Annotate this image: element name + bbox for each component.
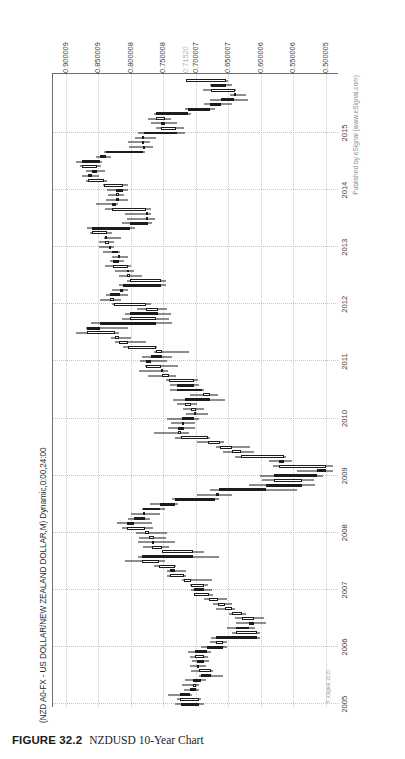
candle-body-down <box>218 488 265 491</box>
candle-wick <box>127 218 155 219</box>
candle-body-up <box>274 478 302 481</box>
candle-body-up <box>170 574 184 577</box>
candle-body-up <box>142 141 144 144</box>
candle-body-up <box>192 683 195 686</box>
candlestick <box>53 245 338 248</box>
candlestick <box>53 260 338 263</box>
candle-body-up <box>109 298 114 301</box>
candle-wick <box>137 541 175 542</box>
candle-body-up <box>118 340 127 343</box>
candle-body-up <box>114 336 118 339</box>
candlestick <box>53 636 338 639</box>
candlestick <box>53 602 338 605</box>
chart-title: (NZD A0-FX - US DOLLAR/NEW ZEALAND DOLLA… <box>39 447 48 722</box>
candle-body-down <box>209 102 220 105</box>
candlestick <box>53 702 338 705</box>
candlestick <box>53 417 338 420</box>
candle-body-down <box>194 588 204 591</box>
candlestick <box>53 502 338 505</box>
candlestick <box>53 212 338 215</box>
publisher-text: Published by eSignal (www.eSignal.com) <box>352 73 359 707</box>
figure-number: FIGURE 32.2 <box>12 734 82 746</box>
candlestick <box>53 307 338 310</box>
candle-wick <box>114 270 133 271</box>
candle-body-down <box>113 260 118 263</box>
candle-body-down <box>88 174 92 177</box>
candlestick <box>53 450 338 453</box>
candlestick <box>53 340 338 343</box>
candle-body-down <box>151 355 161 358</box>
candlestick <box>53 583 338 586</box>
candlestick <box>53 612 338 615</box>
candlestick <box>53 574 338 577</box>
candlestick <box>53 264 338 267</box>
year-axis-label: 2008 <box>340 524 349 541</box>
candlestick <box>53 293 338 296</box>
candlestick <box>53 540 338 543</box>
candle-body-up <box>220 445 232 448</box>
candlestick <box>53 236 338 239</box>
candle-body-up <box>191 583 203 586</box>
candlestick <box>53 255 338 258</box>
candlestick <box>53 312 338 315</box>
candlestick <box>53 412 338 415</box>
candlestick <box>53 164 338 167</box>
year-axis-label: 2006 <box>340 638 349 655</box>
candle-body-up <box>158 564 174 567</box>
candle-body-up <box>186 79 226 82</box>
candle-body-down <box>210 83 225 86</box>
candlestick <box>53 578 338 581</box>
candle-body-up <box>127 345 155 348</box>
candlestick <box>53 498 338 501</box>
price-axis-label: 0.650007 <box>222 42 231 73</box>
candlestick <box>53 431 338 434</box>
candle-body-down <box>170 569 175 572</box>
candle-body-down <box>105 236 107 239</box>
candle-body-down <box>215 636 257 639</box>
candlestick <box>53 697 338 700</box>
candle-body-down <box>181 417 193 420</box>
current-price-marker: 0.71520 <box>180 46 189 73</box>
candle-body-down <box>87 326 99 329</box>
candle-body-up <box>210 88 234 91</box>
candle-body-up <box>114 302 146 305</box>
candlestick <box>53 631 338 634</box>
candle-body-down <box>81 160 100 163</box>
candle-body-down <box>249 621 254 624</box>
candlestick <box>53 369 338 372</box>
candle-body-down <box>316 469 325 472</box>
candle-body-down <box>181 702 199 705</box>
candle-body-down <box>122 283 160 286</box>
candlestick <box>53 478 338 481</box>
candle-body-down <box>220 98 233 101</box>
candlestick <box>53 274 338 277</box>
candlestick <box>53 512 338 515</box>
candlestick <box>53 355 338 358</box>
candlestick <box>53 445 338 448</box>
candle-body-down <box>279 459 284 462</box>
candle-wick <box>139 370 168 371</box>
candlestick <box>53 336 338 339</box>
candlestick <box>53 383 338 386</box>
candle-body-down <box>179 693 189 696</box>
candle-body-up <box>112 207 146 210</box>
candle-body-up <box>197 664 199 667</box>
candlestick <box>53 507 338 510</box>
candlestick <box>53 393 338 396</box>
candle-body-up <box>218 602 225 605</box>
candlestick <box>53 364 338 367</box>
candlestick <box>53 179 338 182</box>
candle-body-down <box>142 136 144 139</box>
esignal-chart: (NZD A0-FX - US DOLLAR/NEW ZEALAND DOLLA… <box>38 35 368 725</box>
candle-body-up <box>224 607 232 610</box>
candle-body-down <box>192 678 200 681</box>
candle-body-down <box>127 269 129 272</box>
candle-body-down <box>194 650 206 653</box>
candlestick <box>53 302 338 305</box>
candlestick <box>53 169 338 172</box>
candle-body-up <box>130 317 155 320</box>
figure-title: NZDUSD 10-Year Chart <box>89 734 203 746</box>
candlestick <box>53 621 338 624</box>
candlestick <box>53 564 338 567</box>
candlestick <box>53 488 338 491</box>
